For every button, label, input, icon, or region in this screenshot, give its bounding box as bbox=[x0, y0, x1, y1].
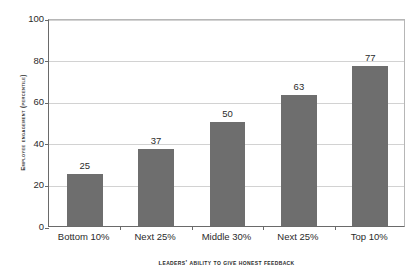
y-axis-tick-mark bbox=[45, 228, 49, 229]
x-axis-tick-label: Next 25% bbox=[119, 232, 190, 242]
bar-value-label: 63 bbox=[263, 82, 334, 92]
y-axis-tick-label: 0 bbox=[16, 222, 44, 232]
bar bbox=[281, 95, 317, 226]
x-axis-tick-mark bbox=[120, 226, 121, 230]
y-axis-tick-mark bbox=[45, 61, 49, 62]
y-axis-tick-label: 80 bbox=[16, 56, 44, 66]
bar bbox=[352, 66, 388, 226]
x-axis-tick-mark bbox=[335, 226, 336, 230]
bar-value-label: 77 bbox=[335, 53, 406, 63]
plot-area: 2537506377 bbox=[48, 19, 405, 227]
x-axis-tick-label: Top 10% bbox=[334, 232, 405, 242]
x-axis-tick-label: Middle 30% bbox=[191, 232, 262, 242]
y-axis-tick-mark bbox=[45, 103, 49, 104]
y-axis-tick-labels: 020406080100 bbox=[10, 0, 44, 272]
y-axis-tick-label: 60 bbox=[16, 97, 44, 107]
bar-value-label: 25 bbox=[49, 161, 120, 171]
y-axis-tick-mark bbox=[45, 20, 49, 21]
bar-value-label: 50 bbox=[192, 109, 263, 119]
x-axis-tick-label: Bottom 10% bbox=[48, 232, 119, 242]
y-axis-tick-mark bbox=[45, 186, 49, 187]
x-axis-tick-mark bbox=[263, 226, 264, 230]
bar bbox=[210, 122, 246, 226]
bar bbox=[138, 149, 174, 226]
x-axis-tick-labels: Bottom 10%Next 25%Middle 30%Next 25%Top … bbox=[48, 232, 405, 246]
gridline bbox=[49, 20, 404, 21]
bar-chart: Employee engagement (percentile) 0204060… bbox=[0, 0, 415, 272]
x-axis-tick-mark bbox=[192, 226, 193, 230]
y-axis-tick-label: 100 bbox=[16, 14, 44, 24]
bar-value-label: 37 bbox=[120, 136, 191, 146]
gridline bbox=[49, 103, 404, 104]
y-axis-tick-mark bbox=[45, 144, 49, 145]
y-axis-tick-label: 20 bbox=[16, 180, 44, 190]
bar bbox=[67, 174, 103, 226]
x-axis-title: Leaders' ability to give honest feedback bbox=[48, 258, 405, 267]
y-axis-tick-label: 40 bbox=[16, 139, 44, 149]
x-axis-tick-label: Next 25% bbox=[262, 232, 333, 242]
